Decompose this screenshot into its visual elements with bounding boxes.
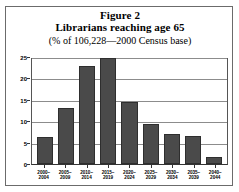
x-axis-tick-label: 2025– 2029 (140, 166, 161, 181)
x-axis-tick-mark (151, 165, 152, 168)
bar-slot (204, 59, 225, 164)
x-axis-tick-label: 2010– 2014 (76, 166, 97, 181)
bar-slot (98, 59, 119, 164)
bar (37, 137, 53, 164)
y-axis-tick-mark (27, 78, 30, 79)
x-axis-tick-mark (87, 165, 88, 168)
x-axis-tick-label: 2020– 2024 (119, 166, 140, 181)
y-axis-tick-label: 10 (20, 119, 27, 125)
x-axis-tick: 2015– 2019 (97, 166, 118, 186)
y-axis-tick-label: 15 (20, 98, 27, 104)
bar-slot (119, 59, 140, 164)
figure-title: Librarians reaching age 65 (6, 21, 234, 34)
bar-slot (161, 59, 182, 164)
x-axis-tick: 2005– 2009 (54, 166, 75, 186)
bar-series (32, 59, 227, 164)
bar (58, 108, 74, 164)
bar-slot (140, 59, 161, 164)
x-axis-tick: 2000– 2004 (33, 166, 54, 186)
x-axis-tick: 2040– 2044 (205, 166, 226, 186)
figure-number: Figure 2 (6, 9, 234, 21)
figure-subtitle: (% of 106,228—2000 Census base) (6, 34, 234, 47)
x-axis-tick: 2020– 2024 (119, 166, 140, 186)
x-axis-tick-mark (129, 165, 130, 168)
y-axis: 0510152025 (6, 58, 30, 165)
x-axis-tick-mark (215, 165, 216, 168)
x-axis-tick-label: 2030– 2034 (162, 166, 183, 181)
y-axis-tick-mark (27, 121, 30, 122)
x-axis-tick: 2030– 2034 (162, 166, 183, 186)
bar-slot (183, 59, 204, 164)
y-axis-tick-mark (27, 143, 30, 144)
bar (164, 134, 180, 164)
bar (185, 136, 201, 164)
x-axis: 2000– 20042005– 20092010– 20142015– 2019… (31, 166, 228, 186)
y-axis-tick-label: 25 (20, 55, 27, 61)
x-axis-tick: 2010– 2014 (76, 166, 97, 186)
figure-frame: Figure 2 Librarians reaching age 65 (% o… (5, 6, 233, 186)
bar (143, 124, 159, 164)
y-axis-tick-mark (27, 57, 30, 58)
x-axis-tick-label: 2015– 2019 (97, 166, 118, 181)
plot-area (31, 58, 228, 165)
x-axis-tick: 2035– 2039 (183, 166, 204, 186)
y-axis-tick-mark (27, 100, 30, 101)
x-axis-tick-mark (44, 165, 45, 168)
y-axis-tick-label: 20 (20, 76, 27, 82)
x-axis-tick-label: 2040– 2044 (205, 166, 226, 181)
y-axis-tick-label: 0 (24, 162, 27, 168)
x-axis-tick-mark (194, 165, 195, 168)
x-axis-tick-mark (108, 165, 109, 168)
x-axis-tick-mark (172, 165, 173, 168)
x-axis-tick-label: 2005– 2009 (54, 166, 75, 181)
x-axis-tick-label: 2035– 2039 (183, 166, 204, 181)
figure-title-block: Figure 2 Librarians reaching age 65 (% o… (6, 9, 234, 47)
y-axis-tick-label: 5 (24, 141, 27, 147)
bar (100, 58, 116, 164)
bar (121, 102, 137, 164)
x-axis-tick-mark (65, 165, 66, 168)
bar-slot (76, 59, 97, 164)
y-axis-tick-mark (27, 164, 30, 165)
x-axis-tick: 2025– 2029 (140, 166, 161, 186)
bar (206, 157, 222, 164)
bar-slot (55, 59, 76, 164)
bar (79, 66, 95, 164)
x-axis-tick-label: 2000– 2004 (33, 166, 54, 181)
bar-slot (34, 59, 55, 164)
